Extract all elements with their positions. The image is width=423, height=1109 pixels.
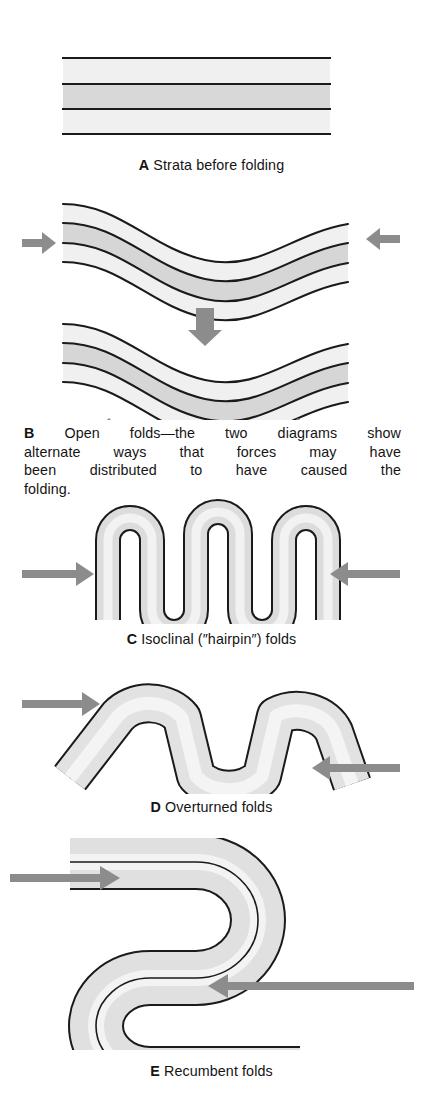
panel-d-caption: D Overturned folds bbox=[0, 798, 423, 817]
panel-c-caption-text: Isoclinal (″hairpin″) folds bbox=[141, 631, 296, 647]
panel-a-caption-text: Strata before folding bbox=[153, 157, 284, 173]
panel-b-caption: B Open folds—the two diagrams show alter… bbox=[0, 424, 423, 498]
panel-b-caption-line-2: alternate ways that forces may have bbox=[24, 443, 401, 462]
panel-e-caption: E Recumbent folds bbox=[0, 1062, 423, 1081]
panel-a-strata-before-folding: A Strata before folding bbox=[0, 46, 423, 175]
isoclinal-serpentine bbox=[108, 512, 328, 624]
panel-e-label: E bbox=[150, 1063, 160, 1079]
panel-b-caption-text-1: Open folds—the two diagrams show bbox=[64, 425, 401, 441]
panel-a-label: A bbox=[139, 157, 149, 173]
fold-types-figure: A Strata before folding bbox=[0, 0, 423, 1109]
open-fold-lower bbox=[60, 308, 352, 420]
compression-arrow-right-b1 bbox=[366, 228, 400, 250]
panel-d-label: D bbox=[151, 799, 161, 815]
overturned-fold-band bbox=[70, 703, 352, 789]
panel-c-isoclinal-folds: C Isoclinal (″hairpin″) folds bbox=[0, 498, 423, 649]
panel-b-label: B bbox=[24, 425, 34, 441]
compression-arrow-left-c bbox=[22, 562, 94, 586]
panel-d-diagram bbox=[0, 672, 423, 794]
panel-c-diagram bbox=[0, 498, 423, 624]
panel-d-caption-text: Overturned folds bbox=[165, 799, 272, 815]
panel-e-caption-text: Recumbent folds bbox=[164, 1063, 273, 1079]
strata-bands bbox=[63, 58, 330, 134]
panel-b-diagram bbox=[0, 196, 423, 420]
panel-b-open-folds: B Open folds—the two diagrams show alter… bbox=[0, 196, 423, 498]
panel-c-label: C bbox=[127, 631, 137, 647]
panel-b-caption-line-4: folding. bbox=[24, 480, 401, 499]
panel-b-caption-line-1: B Open folds—the two diagrams show bbox=[24, 424, 401, 443]
panel-a-caption: A Strata before folding bbox=[0, 156, 423, 175]
panel-e-diagram bbox=[0, 838, 423, 1050]
panel-c-caption: C Isoclinal (″hairpin″) folds bbox=[0, 630, 423, 649]
compression-arrow-left-e bbox=[10, 866, 120, 890]
panel-b-caption-line-3: been distributed to have caused the bbox=[24, 461, 401, 480]
compression-arrow-bottom-left-b2 bbox=[92, 418, 126, 420]
compression-arrow-left-d bbox=[22, 692, 100, 716]
panel-e-recumbent-folds: E Recumbent folds bbox=[0, 838, 423, 1081]
panel-a-diagram bbox=[0, 46, 423, 146]
compression-arrow-left-b1 bbox=[22, 232, 56, 254]
open-fold-upper bbox=[22, 196, 400, 326]
panel-d-overturned-folds: D Overturned folds bbox=[0, 672, 423, 817]
